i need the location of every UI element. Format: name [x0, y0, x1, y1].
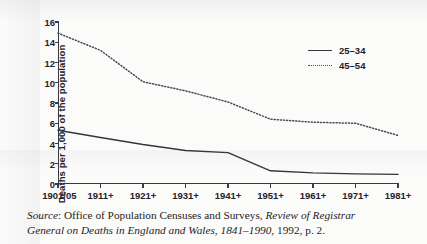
x-tick-label: 1981+	[385, 190, 412, 201]
source-line1-title: Review of Registrar	[265, 209, 355, 221]
source-line2-text: , 1992, p. 2.	[271, 224, 325, 236]
legend-label-45-54: 45–54	[339, 60, 365, 71]
source-line-1: Source: Office of Population Censuses an…	[27, 208, 417, 223]
y-tick-label: 16	[44, 17, 55, 28]
chart-legend: 25–34 45–54	[308, 44, 365, 74]
x-tick-label: 1971+	[342, 190, 369, 201]
source-line1-text: : Office of Population Censuses and Surv…	[58, 209, 266, 221]
x-tick-label: 1911+	[87, 190, 113, 201]
x-tick-label: 1931+	[172, 190, 199, 201]
x-tick-label: 1941+	[215, 190, 242, 201]
source-note: Source: Office of Population Censuses an…	[27, 208, 417, 238]
legend-label-25-34: 25–34	[339, 45, 365, 56]
legend-item-45-54: 45–54	[308, 59, 365, 71]
y-tick-label: 12	[44, 57, 55, 68]
source-prefix: Source	[27, 209, 58, 221]
x-tick-label: 1921+	[130, 190, 157, 201]
legend-swatch-solid-icon	[308, 45, 332, 55]
x-tick-label: 1951+	[257, 190, 284, 201]
source-line-2: General on Deaths in England and Wales, …	[27, 223, 417, 238]
source-line2-title: General on Deaths in England and Wales, …	[27, 224, 271, 236]
y-tick-label: 10	[44, 77, 55, 88]
y-tick-label: 14	[44, 37, 55, 48]
x-tick-label: 1901/05	[42, 190, 76, 201]
mortality-line-chart-figure: Deaths per 1,000 of the population 02468…	[0, 0, 427, 244]
x-tick-label: 1961+	[300, 190, 327, 201]
series-line-25-34	[58, 130, 398, 174]
legend-item-25-34: 25–34	[308, 44, 365, 56]
legend-swatch-dotted-icon	[308, 60, 332, 70]
